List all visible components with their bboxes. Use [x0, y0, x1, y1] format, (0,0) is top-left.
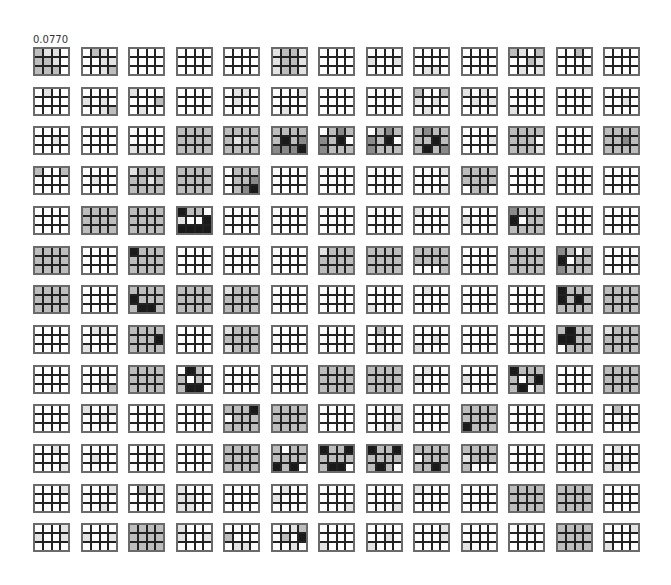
grid-cell	[558, 226, 565, 233]
grid-cell	[377, 217, 384, 224]
grid-cell	[558, 385, 565, 392]
grid-cell	[368, 248, 375, 255]
grid-cell	[576, 208, 583, 215]
grid-cell	[251, 217, 258, 224]
grid-cell	[415, 186, 422, 193]
grid-cell	[156, 186, 163, 193]
grid-cell	[225, 58, 232, 65]
grid-cell	[291, 305, 298, 312]
grid-cell	[178, 49, 185, 56]
grid-cell	[148, 406, 155, 413]
grid-cell	[623, 266, 630, 273]
grid-block	[33, 87, 70, 116]
grid-cell	[346, 305, 353, 312]
grid-cell	[623, 305, 630, 312]
grid-cell	[346, 257, 353, 264]
grid-cell	[148, 89, 155, 96]
grid-block	[318, 404, 355, 433]
grid-cell	[631, 327, 638, 334]
grid-cell	[299, 495, 306, 502]
grid-cell	[489, 296, 496, 303]
grid-cell	[282, 128, 289, 135]
grid-cell	[433, 296, 440, 303]
grid-cell	[196, 208, 203, 215]
grid-block	[33, 126, 70, 155]
grid-cell	[282, 67, 289, 74]
grid-cell	[424, 336, 431, 343]
grid-cell	[178, 177, 185, 184]
grid-cell	[346, 58, 353, 65]
grid-cell	[53, 49, 60, 56]
grid-cell	[234, 534, 241, 541]
grid-cell	[196, 525, 203, 532]
grid-cell	[605, 327, 612, 334]
grid-cell	[291, 376, 298, 383]
grid-cell	[130, 367, 137, 374]
grid-cell	[130, 98, 137, 105]
grid-cell	[584, 128, 591, 135]
grid-cell	[519, 177, 526, 184]
grid-block	[128, 484, 165, 513]
grid-cell	[251, 226, 258, 233]
grid-cell	[101, 543, 108, 550]
grid-cell	[234, 376, 241, 383]
grid-cell	[424, 543, 431, 550]
grid-cell	[243, 226, 250, 233]
grid-cell	[35, 89, 42, 96]
grid-cell	[204, 107, 211, 114]
grid-cell	[234, 137, 241, 144]
grid-cell	[92, 137, 99, 144]
grid-cell	[558, 128, 565, 135]
grid-cell	[394, 345, 401, 352]
grid-block	[176, 404, 213, 433]
grid-cell	[441, 177, 448, 184]
grid-block	[271, 404, 308, 433]
grid-cell	[92, 89, 99, 96]
grid-cell	[35, 305, 42, 312]
grid-cell	[156, 98, 163, 105]
grid-cell	[204, 305, 211, 312]
grid-cell	[35, 464, 42, 471]
grid-cell	[528, 415, 535, 422]
grid-cell	[623, 146, 630, 153]
grid-cell	[83, 367, 90, 374]
grid-cell	[386, 455, 393, 462]
grid-cell	[623, 327, 630, 334]
grid-cell	[441, 89, 448, 96]
grid-cell	[481, 257, 488, 264]
grid-cell	[225, 217, 232, 224]
grid-cell	[576, 287, 583, 294]
grid-cell	[178, 168, 185, 175]
grid-cell	[386, 296, 393, 303]
grid-cell	[234, 525, 241, 532]
grid-cell	[536, 67, 543, 74]
grid-cell	[282, 367, 289, 374]
grid-cell	[584, 296, 591, 303]
grid-cell	[631, 525, 638, 532]
grid-cell	[472, 257, 479, 264]
grid-cell	[243, 305, 250, 312]
grid-cell	[204, 177, 211, 184]
grid-cell	[273, 89, 280, 96]
grid-cell	[519, 406, 526, 413]
grid-cell	[510, 504, 517, 511]
grid-cell	[178, 406, 185, 413]
grid-cell	[61, 67, 68, 74]
grid-cell	[605, 107, 612, 114]
grid-cell	[156, 168, 163, 175]
grid-cell	[130, 186, 137, 193]
grid-cell	[536, 128, 543, 135]
grid-cell	[415, 128, 422, 135]
grid-cell	[282, 376, 289, 383]
grid-cell	[273, 67, 280, 74]
grid-cell	[394, 495, 401, 502]
grid-cell	[433, 495, 440, 502]
grid-cell	[631, 248, 638, 255]
grid-cell	[481, 177, 488, 184]
grid-cell	[441, 486, 448, 493]
grid-cell	[481, 248, 488, 255]
grid-cell	[510, 49, 517, 56]
grid-cell	[377, 287, 384, 294]
grid-cell	[463, 446, 470, 453]
grid-cell	[234, 495, 241, 502]
